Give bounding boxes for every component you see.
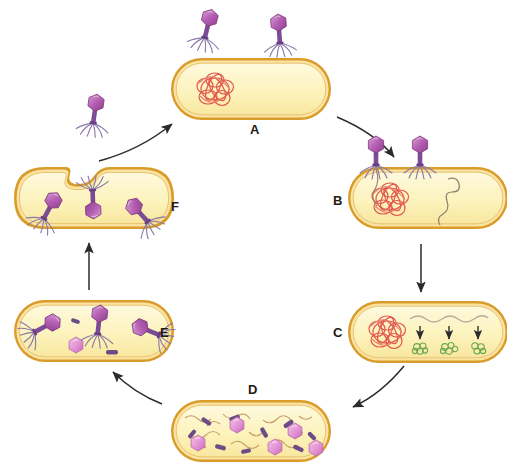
stage-e-leftover-tail-2	[106, 350, 118, 354]
stage-a-group	[171, 6, 331, 120]
stage-label-c: C	[333, 325, 343, 340]
stage-a-phage-1	[186, 6, 227, 55]
stage-label-a: A	[250, 122, 260, 137]
cycle-arrows	[89, 117, 421, 407]
stage-e-cell	[14, 300, 178, 362]
arrow-d-to-e	[113, 372, 162, 404]
arrow-a-to-b	[337, 117, 394, 157]
stage-label-b: B	[333, 193, 343, 208]
stage-label-e: E	[160, 325, 169, 340]
stage-a-cell	[171, 58, 331, 120]
stage-e-leftover-head	[69, 337, 83, 353]
stage-d-group	[171, 400, 331, 462]
stage-label-d: D	[248, 382, 258, 397]
arrow-f-to-a	[99, 124, 172, 161]
stage-c-cell	[348, 301, 507, 363]
stage-b-cell	[348, 167, 507, 229]
stage-a-phage-2	[262, 13, 297, 58]
stage-f-group	[14, 92, 174, 243]
stage-f-released-phage	[75, 92, 113, 139]
stage-b-group	[348, 136, 507, 229]
stage-label-f: F	[171, 199, 179, 214]
arrow-c-to-d	[353, 366, 404, 407]
stage-d-cell	[171, 400, 331, 462]
lytic-cycle-diagram: A B C D E F	[0, 0, 507, 465]
stage-f-cell	[14, 167, 174, 243]
stage-e-group	[14, 300, 178, 362]
stage-c-group	[348, 301, 507, 363]
